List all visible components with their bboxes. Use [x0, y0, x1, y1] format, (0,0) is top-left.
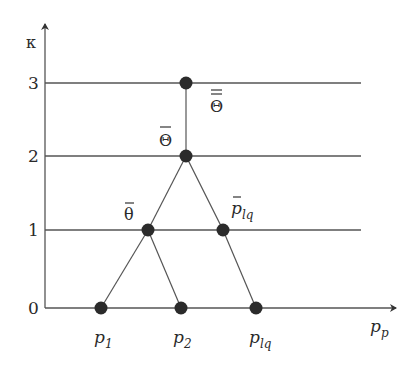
node-theta-bar-upper: [180, 150, 193, 163]
x-axis-label: pp: [370, 316, 389, 340]
label-theta-bar: θ: [124, 205, 134, 224]
y-tick-0: 0: [28, 298, 39, 318]
label-plq-bar: plq: [231, 198, 254, 222]
label-Theta-bar: Θ: [159, 131, 172, 150]
node-theta-dbar: [180, 77, 193, 90]
edges: [101, 83, 256, 308]
y-tick-3: 3: [28, 73, 39, 93]
node-p1: [95, 302, 108, 315]
label-p1: p1: [94, 327, 113, 351]
label-plq: plq: [249, 327, 272, 351]
lattice-diagram: κ 3 2 1 0 pp p1 p2 plq θ plq Θ Θ: [0, 0, 419, 368]
y-tick-2: 2: [28, 146, 39, 166]
node-plq-bar: [217, 224, 230, 237]
y-axis-label: κ: [26, 33, 36, 52]
y-tick-1: 1: [28, 220, 39, 240]
node-theta-bar: [142, 224, 155, 237]
node-p2: [175, 302, 188, 315]
label-p2: p2: [173, 327, 192, 351]
label-Theta-dbar: Θ: [210, 97, 223, 116]
node-plq: [250, 302, 263, 315]
